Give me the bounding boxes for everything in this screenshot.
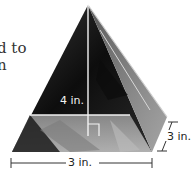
height-label: 4 in. [60, 95, 84, 107]
base-depth-dimension-bottom [162, 141, 166, 151]
base-width-label: 3 in. [68, 157, 92, 169]
base-depth-dimension-top [169, 122, 172, 130]
figure: d to n [0, 0, 192, 172]
base-depth-label: 3 in. [167, 131, 191, 143]
pyramid-illustration [0, 0, 192, 172]
